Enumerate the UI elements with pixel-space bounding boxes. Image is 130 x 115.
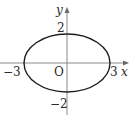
tick-label-y-pos: 2 <box>57 21 65 35</box>
origin-label: O <box>54 65 64 79</box>
y-axis-arrow-icon <box>65 7 70 13</box>
ellipse-diagram: y x O 2 −2 −3 3 <box>0 0 130 115</box>
tick-label-x-pos: 3 <box>110 65 118 79</box>
x-axis-label: x <box>121 65 128 79</box>
tick-label-y-neg: −2 <box>50 97 68 111</box>
tick-label-x-neg: −3 <box>3 65 21 79</box>
y-axis-label: y <box>55 3 63 17</box>
